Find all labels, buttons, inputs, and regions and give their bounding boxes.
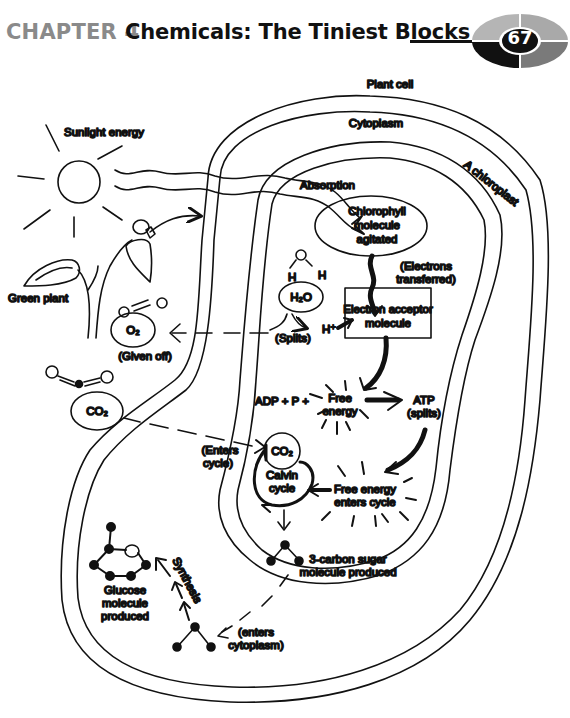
label-h2o: H₂O (290, 291, 312, 303)
label-atp-1: ATP (413, 394, 435, 406)
acceptor-to-energy-arrow (366, 338, 386, 388)
label-free-energy-enters-2: enters cycle (334, 496, 395, 508)
label-absorption: Absorption (300, 179, 355, 191)
label-calvin-2: cycle (269, 482, 295, 494)
label-glucose-1: Glucose (104, 584, 146, 596)
label-plant-cell: Plant cell (367, 78, 414, 90)
label-chlorophyll-1: Chlorophyll (348, 205, 406, 217)
label-enters-cytoplasm-1: (enters (238, 626, 274, 638)
label-h-right: H (318, 269, 326, 281)
water-molecule-icon (270, 250, 323, 330)
label-enters-cycle-1: (Enters (201, 444, 238, 456)
label-acceptor-2: molecule (365, 317, 411, 329)
label-given-off: (Given off) (118, 350, 172, 362)
label-atp-2: (splits) (407, 407, 441, 419)
label-enters-cytoplasm-2: cytoplasm) (228, 639, 284, 651)
label-synthesis: Synthesis (170, 555, 204, 605)
label-chlorophyll-2: molecule (354, 219, 400, 231)
oxygen-molecule-icon (111, 298, 167, 347)
label-three-carbon-1: 3-carbon sugar (309, 553, 387, 565)
label-adp: ADP + P + (255, 395, 309, 407)
label-co2-outside: CO₂ (86, 405, 108, 417)
green-plant-icon (24, 216, 200, 338)
label-sunlight: Sunlight energy (64, 126, 144, 138)
label-glucose-3: produced (101, 610, 149, 622)
label-chlorophyll-3: agitated (357, 233, 398, 245)
label-splits: (Splits) (275, 332, 311, 344)
label-electrons-1: (Electrons (400, 260, 452, 272)
label-three-carbon-2: molecule produced (299, 566, 396, 578)
label-o2: O₂ (126, 324, 139, 336)
label-co2-cycle: CO₂ (271, 445, 293, 457)
label-h-left: H (288, 271, 296, 283)
label-electrons-2: transferred) (396, 273, 456, 285)
label-glucose-2: molecule (102, 597, 148, 609)
label-chloroplast: A chloroplast (462, 158, 522, 208)
label-free-energy-1: Free (328, 392, 352, 404)
photosynthesis-diagram: Plant cell Cytoplasm A chloroplast Sunli… (0, 0, 570, 718)
glucose-molecule-icon (90, 523, 150, 580)
label-enters-cycle-2: cycle) (203, 457, 233, 469)
label-free-energy-2: energy (322, 405, 357, 417)
label-h-plus: H⁺ (322, 323, 336, 335)
carbon-dioxide-molecule-icon (46, 366, 123, 430)
cytoplasm-sugar-icon (173, 623, 215, 651)
sugar-exit-dashed-arrow (222, 575, 288, 632)
label-acceptor-1: Electron acceptor (343, 303, 433, 315)
label-calvin-1: Calvin (266, 469, 298, 481)
label-green-plant: Green plant (8, 292, 69, 304)
sun-icon (18, 125, 122, 237)
label-free-energy-enters-1: Free energy (334, 483, 396, 495)
label-cytoplasm: Cytoplasm (349, 117, 403, 129)
